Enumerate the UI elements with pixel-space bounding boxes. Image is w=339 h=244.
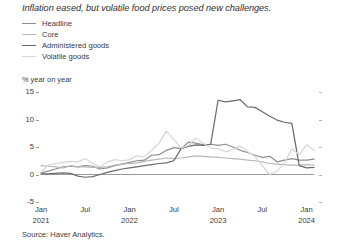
x-axis-tick-label-month: Jan — [26, 205, 56, 214]
chart-title: Inflation eased, but volatile food price… — [22, 2, 322, 14]
source-note: Source: Haver Analytics. — [22, 230, 105, 239]
legend-item[interactable]: Core — [22, 29, 109, 40]
legend-item-label: Administered goods — [42, 40, 109, 51]
legend-swatch-line-icon — [22, 34, 36, 35]
x-axis-tick-label-year: 2024 — [292, 216, 322, 225]
x-axis-tick-label-month: Jul — [159, 205, 189, 214]
x-axis-tick-label-year: 2023 — [203, 216, 233, 225]
y-axis-tick-mark-right — [319, 202, 322, 203]
y-axis-tick-mark — [36, 202, 39, 203]
legend-swatch-line-icon — [22, 23, 36, 24]
x-axis-tick-label-year: 2021 — [26, 216, 56, 225]
legend-item[interactable]: Headline — [22, 18, 109, 29]
y-axis-unit-label: % year on year — [22, 75, 72, 84]
x-axis-tick-label-month: Jan — [115, 205, 145, 214]
series-line — [41, 142, 314, 173]
legend-item-label: Volatile goods — [42, 51, 89, 62]
y-axis-tick-label: 10 — [14, 115, 34, 124]
x-axis-tick-label-month: Jul — [70, 205, 100, 214]
series-line — [41, 131, 314, 174]
y-axis-tick-mark — [36, 92, 39, 93]
y-axis-tick-label: 5 — [14, 142, 34, 151]
legend-item[interactable]: Administered goods — [22, 40, 109, 51]
y-axis-tick-mark-right — [319, 120, 322, 121]
y-axis-tick-mark — [36, 147, 39, 148]
series-lines — [41, 100, 314, 178]
legend-swatch-line-icon — [22, 45, 36, 46]
plot-area — [41, 92, 314, 202]
chart-container: Inflation eased, but volatile food price… — [0, 0, 339, 244]
legend-item-label: Headline — [42, 18, 72, 29]
legend-swatch-line-icon — [22, 56, 36, 57]
y-axis-tick-mark-right — [319, 92, 322, 93]
y-axis-tick-mark — [36, 175, 39, 176]
legend-item-label: Core — [42, 29, 58, 40]
y-axis-tick-label: 15 — [14, 87, 34, 96]
y-axis-tick-mark-right — [319, 175, 322, 176]
x-axis-tick-label-year: 2022 — [115, 216, 145, 225]
x-axis-tick-label-month: Jan — [203, 205, 233, 214]
y-axis-tick-mark-right — [319, 147, 322, 148]
x-axis-tick-label-month: Jul — [247, 205, 277, 214]
x-axis-tick-label-month: Jan — [292, 205, 322, 214]
y-axis-tick-mark — [36, 120, 39, 121]
y-axis-tick-label: 0 — [14, 170, 34, 179]
chart-legend: HeadlineCoreAdministered goodsVolatile g… — [22, 18, 109, 62]
legend-item[interactable]: Volatile goods — [22, 51, 109, 62]
